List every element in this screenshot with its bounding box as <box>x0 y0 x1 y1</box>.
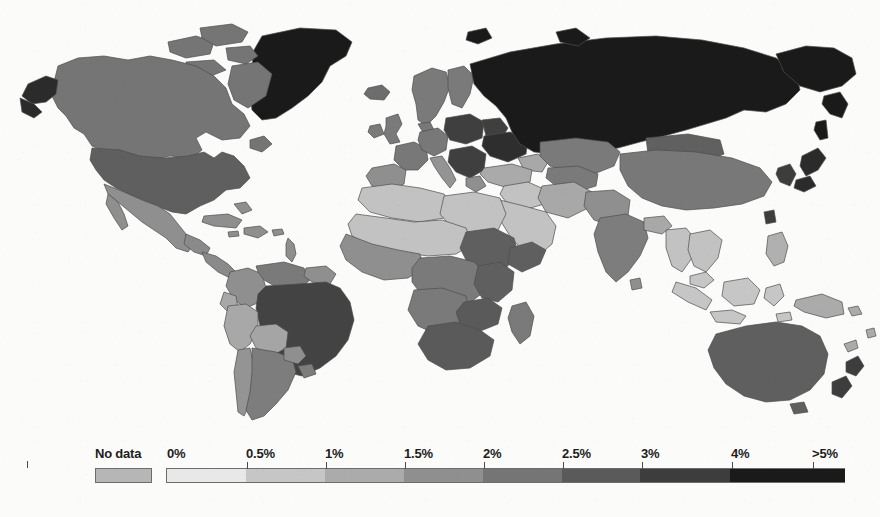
legend-no-data-tick <box>27 461 28 468</box>
region-timor <box>776 312 792 322</box>
legend-tick-label: 0.5% <box>246 447 275 460</box>
world-map-svg <box>0 0 880 440</box>
world-map <box>0 0 880 440</box>
colorbar-segment <box>640 469 731 482</box>
legend-tick-label: 3% <box>641 447 659 460</box>
colorbar-segment <box>562 469 642 482</box>
legend-tick-label: 4% <box>731 447 749 460</box>
legend-tick-label: 2% <box>483 447 501 460</box>
colorbar-segment <box>730 469 844 482</box>
colorbar-tick <box>642 462 643 469</box>
region-jamaica <box>228 231 239 237</box>
legend-tick-label: 1.5% <box>404 447 433 460</box>
colorbar-tick <box>563 462 564 469</box>
legend-tick-label: 1% <box>325 447 343 460</box>
legend-tick-label: >5% <box>812 447 838 460</box>
colorbar-segment <box>246 469 326 482</box>
colorbar-segment <box>404 469 484 482</box>
legend-tick-label: 2.5% <box>562 447 591 460</box>
colorbar-tick <box>405 462 406 469</box>
legend-tick-label: 0% <box>167 447 185 460</box>
colorbar-tick <box>484 462 485 469</box>
region-fiji <box>866 328 876 338</box>
map-legend: No data 0%0.5%1%1.5%2%2.5%3%4%>5% <box>0 440 880 517</box>
colorbar-tick <box>813 462 814 469</box>
colorbar-tick <box>326 462 327 469</box>
region-sri-lanka <box>630 278 642 290</box>
colorbar-segment <box>325 469 405 482</box>
colorbar-segment <box>167 469 247 482</box>
colorbar-tick <box>247 462 248 469</box>
region-taiwan <box>764 210 776 224</box>
legend-no-data-label: No data <box>95 447 141 460</box>
legend-no-data-swatch <box>95 468 152 483</box>
colorbar-tick <box>732 462 733 469</box>
choropleth-figure: No data 0%0.5%1%1.5%2%2.5%3%4%>5% <box>0 0 880 517</box>
colorbar-segment <box>483 469 563 482</box>
legend-colorbar <box>166 468 845 483</box>
region-poland-baltics <box>444 114 484 144</box>
